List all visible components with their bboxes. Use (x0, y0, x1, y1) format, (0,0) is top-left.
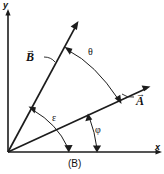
figure-caption: (B) (68, 159, 81, 169)
vector-a-group (8, 85, 151, 152)
vector-a-label-text: A (136, 94, 144, 108)
vector-b-label-text: B (26, 50, 34, 64)
angle-phi-label: φ (95, 125, 101, 135)
angle-epsilon-group (29, 107, 73, 153)
vector-b-arrowhead (71, 21, 79, 30)
vector-a-label: → A (136, 92, 144, 107)
angle-theta-label: θ (88, 47, 93, 57)
vector-b-label: → B (26, 48, 34, 63)
x-axis-label: x (155, 143, 160, 152)
angle-theta-arrowhead-b-side (65, 47, 73, 55)
y-axis-label: y (3, 1, 8, 10)
angle-epsilon-label: ε (52, 113, 56, 123)
vector-a-line (8, 88, 146, 152)
angle-theta-group (65, 47, 122, 104)
vector-diagram-figure: y x → B → A θ ε φ (B) (0, 0, 164, 174)
vector-b-group (8, 21, 79, 152)
angle-theta-arc (69, 51, 119, 100)
axes-group (5, 9, 162, 155)
angle-phi-arrowhead-a-side (85, 114, 92, 122)
vector-b-leader-line (44, 57, 55, 62)
vector-diagram-canvas (0, 0, 164, 174)
angle-epsilon-arc (33, 110, 68, 147)
vector-b-line (8, 25, 76, 152)
